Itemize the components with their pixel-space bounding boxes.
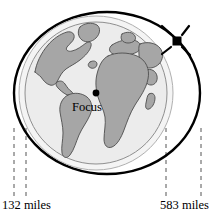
satellite-arm-lower-left xyxy=(162,47,171,54)
left-distance-label: 132 miles xyxy=(2,199,51,212)
focus-label: Focus xyxy=(72,100,102,115)
right-distance-label: 583 miles xyxy=(160,199,209,212)
satellite-icon xyxy=(162,26,190,55)
orbit-diagram-canvas xyxy=(0,0,213,219)
satellite-body xyxy=(173,37,182,46)
orbit-diagram-figure: Focus 132 miles 583 miles xyxy=(0,0,213,219)
island-landmass xyxy=(88,61,97,68)
satellite-arm-upper-right xyxy=(182,26,189,35)
focus-point-icon xyxy=(93,90,100,97)
scandinavia-landmass xyxy=(121,32,136,43)
satellite-arm-upper-left xyxy=(162,26,171,34)
